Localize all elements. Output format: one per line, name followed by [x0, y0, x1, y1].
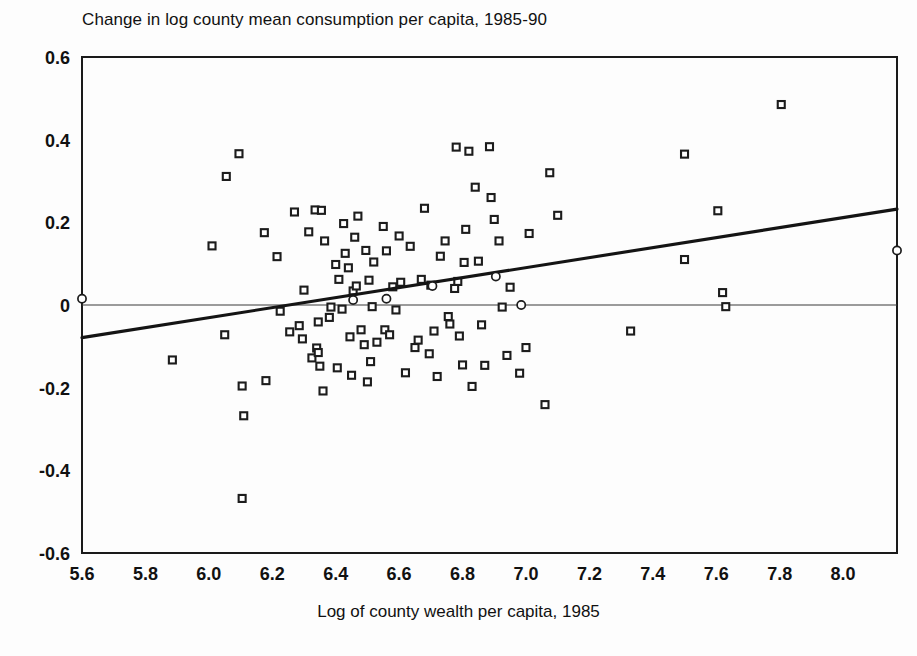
fitted-value-marker [428, 282, 436, 290]
data-point [456, 333, 463, 340]
data-point [296, 322, 303, 329]
y-tick-label: 0.4 [45, 131, 70, 151]
data-point [627, 328, 634, 335]
data-point [277, 308, 284, 315]
data-point [486, 143, 493, 150]
data-point [442, 237, 449, 244]
x-tick-label: 6.4 [323, 564, 348, 584]
data-point [315, 349, 322, 356]
data-point [262, 377, 269, 384]
data-point [396, 232, 403, 239]
x-tick-label: 7.6 [704, 564, 729, 584]
data-point [358, 326, 365, 333]
x-axis-tick-labels: 5.65.86.06.26.46.66.87.07.27.47.67.88.0 [69, 564, 855, 584]
data-point [362, 247, 369, 254]
data-point [546, 169, 553, 176]
data-point [472, 184, 479, 191]
data-point [446, 321, 453, 328]
data-point [516, 370, 523, 377]
data-point [462, 226, 469, 233]
x-tick-label: 7.2 [577, 564, 602, 584]
data-point [397, 279, 404, 286]
data-point [681, 256, 688, 263]
data-point [380, 223, 387, 230]
fitted-value-marker [517, 301, 525, 309]
data-point [339, 306, 346, 313]
data-point [434, 373, 441, 380]
data-point [300, 287, 307, 294]
data-point [342, 250, 349, 257]
data-point [411, 344, 418, 351]
x-tick-label: 6.2 [260, 564, 285, 584]
data-point [407, 243, 414, 250]
data-point [354, 213, 361, 220]
data-point [373, 339, 380, 346]
data-point [235, 150, 242, 157]
y-tick-label: 0 [60, 296, 70, 316]
x-tick-label: 6.6 [387, 564, 412, 584]
data-point [481, 362, 488, 369]
x-tick-label: 5.8 [133, 564, 158, 584]
scatter-plot: 0.60.40.20-0.2-0.4-0.6 5.65.86.06.26.46.… [0, 0, 917, 656]
data-point [418, 276, 425, 283]
data-point [261, 229, 268, 236]
data-point [315, 318, 322, 325]
data-point [361, 341, 368, 348]
fitted-value-marker-group [78, 246, 901, 309]
data-point [340, 220, 347, 227]
y-tick-label: -0.2 [39, 379, 70, 399]
data-point [469, 383, 476, 390]
data-point [478, 321, 485, 328]
data-point [239, 383, 246, 390]
y-tick-label: -0.4 [39, 461, 70, 481]
x-axis-label: Log of county wealth per capita, 1985 [0, 602, 917, 622]
data-point [274, 253, 281, 260]
data-point [453, 144, 460, 151]
data-point-group [169, 101, 785, 502]
data-point [437, 253, 444, 260]
x-tick-label: 7.0 [513, 564, 538, 584]
data-point [526, 230, 533, 237]
chart-figure: Change in log county mean consumption pe… [0, 0, 917, 656]
data-point [351, 234, 358, 241]
data-point [415, 337, 422, 344]
data-point [209, 242, 216, 249]
x-tick-label: 8.0 [831, 564, 856, 584]
fitted-value-marker [492, 272, 500, 280]
data-point [722, 303, 729, 310]
x-tick-label: 6.8 [450, 564, 475, 584]
data-point [223, 173, 230, 180]
y-tick-label: 0.6 [45, 48, 70, 68]
data-point [239, 495, 246, 502]
data-point [459, 361, 466, 368]
data-point [554, 212, 561, 219]
data-point [305, 228, 312, 235]
regression-line-group [82, 209, 897, 338]
data-point [426, 350, 433, 357]
data-point [499, 304, 506, 311]
data-point [221, 331, 228, 338]
data-point [365, 277, 372, 284]
data-point [522, 344, 529, 351]
data-point [491, 216, 498, 223]
data-point [383, 247, 390, 254]
data-point [326, 314, 333, 321]
data-point [778, 101, 785, 108]
data-point [488, 194, 495, 201]
y-tick-label: 0.2 [45, 213, 70, 233]
x-tick-label: 7.4 [640, 564, 665, 584]
data-point [431, 328, 438, 335]
data-point [348, 372, 355, 379]
data-point [681, 151, 688, 158]
data-point [345, 264, 352, 271]
data-point [364, 378, 371, 385]
data-point [353, 282, 360, 289]
data-point [461, 259, 468, 266]
x-tick-label: 5.6 [69, 564, 94, 584]
fitted-value-marker [349, 296, 357, 304]
data-point [445, 313, 452, 320]
data-point [402, 369, 409, 376]
fitted-value-marker [382, 295, 390, 303]
data-point [503, 352, 510, 359]
data-point [719, 289, 726, 296]
